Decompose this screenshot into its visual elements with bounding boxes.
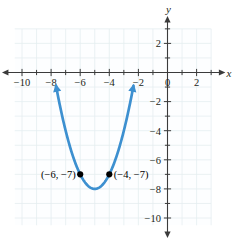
x-tick-label--6: −6 <box>75 77 86 88</box>
y-tick-label--10: −10 <box>145 213 161 224</box>
y-tick-label--8: −8 <box>150 184 161 195</box>
right-point-label: (−4, −7) <box>114 169 149 181</box>
left-point-label: (−6, −7) <box>41 169 76 181</box>
x-tick-label-0: 0 <box>165 77 170 88</box>
grid-lines <box>15 29 211 225</box>
plot-point-1 <box>106 171 112 177</box>
x-tick-label-2: 2 <box>194 77 199 88</box>
x-tick-label--10: −10 <box>14 77 30 88</box>
y-axis-label: y <box>165 3 171 15</box>
x-axis-label: x <box>225 67 231 79</box>
x-tick-label--4: −4 <box>104 77 116 88</box>
coordinate-plane: −10−8−6−4−2022−2−4−6−8−10xy (−6, −7)(−4,… <box>0 0 239 241</box>
graph-figure: −10−8−6−4−2022−2−4−6−8−10xy (−6, −7)(−4,… <box>0 0 239 241</box>
y-tick-label--2: −2 <box>150 96 161 107</box>
y-tick-label--4: −4 <box>150 126 162 137</box>
y-tick-label-2: 2 <box>156 38 161 49</box>
plot-point-0 <box>77 171 83 177</box>
y-tick-label--6: −6 <box>150 155 161 166</box>
